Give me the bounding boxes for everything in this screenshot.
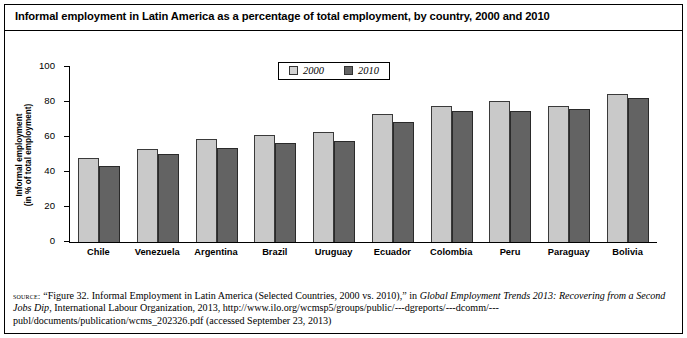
bar-groups (70, 67, 657, 242)
bar-venezuela-2010[interactable] (158, 154, 179, 242)
figure-container: Informal employment in Latin America as … (0, 0, 687, 338)
bar-chile-2010[interactable] (99, 166, 120, 242)
bar-ecuador-2000[interactable] (372, 114, 393, 242)
bar-group (422, 67, 481, 242)
bar-group (540, 67, 599, 242)
source-text-2: , International Labour Organization, 201… (13, 302, 499, 325)
bar-bolivia-2010[interactable] (628, 98, 649, 242)
bar-peru-2010[interactable] (510, 111, 531, 242)
bar-venezuela-2000[interactable] (137, 149, 158, 242)
y-axis-tick-label: 80 (44, 95, 55, 106)
figure-frame: Informal employment in Latin America as … (4, 4, 683, 334)
y-axis-tick-label: 40 (44, 165, 55, 176)
x-axis-label-brazil: Brazil (245, 247, 304, 257)
bar-group (129, 67, 188, 242)
y-axis-title-line2: (in % of total employment) (24, 104, 34, 206)
x-axis-label-bolivia: Bolivia (598, 247, 657, 257)
source-note: source: “Figure 32. Informal Employment … (13, 290, 677, 327)
x-axis-label-chile: Chile (69, 247, 128, 257)
bar-group (364, 67, 423, 242)
x-axis-label-uruguay: Uruguay (304, 247, 363, 257)
bar-chile-2000[interactable] (78, 158, 99, 242)
bar-uruguay-2000[interactable] (313, 132, 334, 242)
bar-brazil-2010[interactable] (275, 143, 296, 242)
y-axis-tick-label: 0 (50, 235, 55, 246)
bar-paraguay-2000[interactable] (548, 106, 569, 243)
y-axis-title: Informal employment (in % of total emplo… (17, 67, 31, 243)
bar-uruguay-2010[interactable] (334, 141, 355, 243)
bar-colombia-2010[interactable] (452, 111, 473, 242)
y-axis-tick-label: 20 (44, 200, 55, 211)
bar-peru-2000[interactable] (489, 101, 510, 242)
title-band: Informal employment in Latin America as … (5, 5, 682, 31)
bar-paraguay-2010[interactable] (569, 109, 590, 242)
source-label: source: (13, 291, 41, 301)
bar-colombia-2000[interactable] (431, 106, 452, 243)
bar-ecuador-2010[interactable] (393, 122, 414, 242)
bar-bolivia-2000[interactable] (607, 94, 628, 242)
x-axis-labels: ChileVenezuelaArgentinaBrazilUruguayEcua… (69, 247, 657, 257)
bar-group (70, 67, 129, 242)
x-axis-label-paraguay: Paraguay (539, 247, 598, 257)
x-axis-label-ecuador: Ecuador (363, 247, 422, 257)
figure-title: Informal employment in Latin America as … (15, 10, 550, 22)
bar-group (246, 67, 305, 242)
bar-group (187, 67, 246, 242)
plot-box: 020406080100 (69, 67, 657, 243)
y-axis-tick-label: 100 (39, 60, 55, 71)
source-text-1: “Figure 32. Informal Employment in Latin… (43, 290, 419, 301)
x-axis-label-argentina: Argentina (187, 247, 246, 257)
bar-group (305, 67, 364, 242)
bar-group (598, 67, 657, 242)
y-axis-tick-label: 60 (44, 130, 55, 141)
x-axis-label-venezuela: Venezuela (128, 247, 187, 257)
bar-argentina-2010[interactable] (217, 148, 238, 242)
x-axis-label-colombia: Colombia (422, 247, 481, 257)
bar-argentina-2000[interactable] (196, 139, 217, 242)
bar-brazil-2000[interactable] (254, 135, 275, 242)
bar-group (481, 67, 540, 242)
plot-inner: 020406080100 (70, 67, 657, 242)
chart-area: 2000 2010 Informal employment (in % of t… (5, 31, 682, 286)
x-axis-label-peru: Peru (481, 247, 540, 257)
y-axis-title-line1: Informal employment (15, 114, 25, 197)
